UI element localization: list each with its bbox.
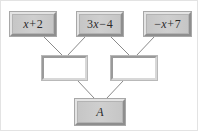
connector-m1-to-b1	[78, 81, 94, 98]
node-middle-right-blank[interactable]	[111, 56, 157, 80]
connector-m2-to-b1	[107, 81, 123, 98]
node-top-right[interactable]: −x+7	[144, 12, 191, 36]
expression-A: A	[96, 106, 104, 118]
node-top-left-inner: x+2	[12, 14, 54, 34]
node-middle-left-inner	[44, 58, 85, 78]
node-middle-left-blank[interactable]	[42, 56, 87, 80]
node-bottom-result-inner: A	[77, 101, 123, 123]
connector-n2-to-m2	[111, 37, 129, 55]
node-top-right-inner: −x+7	[146, 14, 189, 34]
connector-n3-to-m2	[137, 37, 154, 55]
expression-3x-minus-4: 3x−4	[87, 18, 113, 30]
connector-n1-to-m1	[44, 37, 62, 55]
node-top-left[interactable]: x+2	[10, 12, 56, 36]
diagram-canvas: x+2 3x−4 −x+7 A	[0, 0, 198, 131]
expression-x-plus-2: x+2	[23, 18, 43, 30]
node-top-middle-inner: 3x−4	[79, 14, 121, 34]
expression-minus-x-plus-7: −x+7	[154, 18, 181, 30]
node-middle-right-inner	[113, 58, 155, 78]
node-bottom-result[interactable]: A	[75, 99, 125, 125]
node-top-middle[interactable]: 3x−4	[77, 12, 123, 36]
connector-n2-to-m1	[68, 37, 85, 55]
